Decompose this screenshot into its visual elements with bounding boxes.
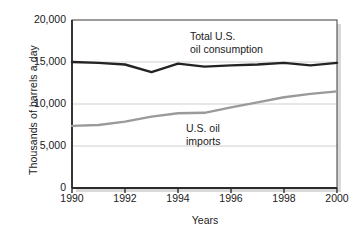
- y-tick-label-10000: 10,000: [18, 98, 66, 109]
- y-tick-label-5000: 5,000: [18, 140, 66, 151]
- y-tick-label-15000: 15,000: [18, 56, 66, 67]
- y-tick-label-20000: 20,000: [18, 14, 66, 25]
- y-axis-title: Thousands of barrels a day: [27, 15, 39, 205]
- y-tick-label-0: 0: [18, 182, 66, 193]
- chart-figure: 05,00010,00015,00020,000 199019921994199…: [0, 0, 356, 236]
- annotation-total-us-oil-consumption: Total U.S. oil consumption: [190, 30, 263, 55]
- x-tick-label-1990: 1990: [50, 192, 94, 204]
- x-tick-label-1992: 1992: [103, 192, 147, 204]
- annotation-us-oil-imports: U.S. oil imports: [186, 122, 220, 147]
- x-axis-title: Years: [72, 214, 338, 226]
- x-tick-label-1994: 1994: [156, 192, 200, 204]
- x-tick-label-1998: 1998: [262, 192, 306, 204]
- x-tick-label-2000: 2000: [315, 192, 356, 204]
- x-tick-label-1996: 1996: [209, 192, 253, 204]
